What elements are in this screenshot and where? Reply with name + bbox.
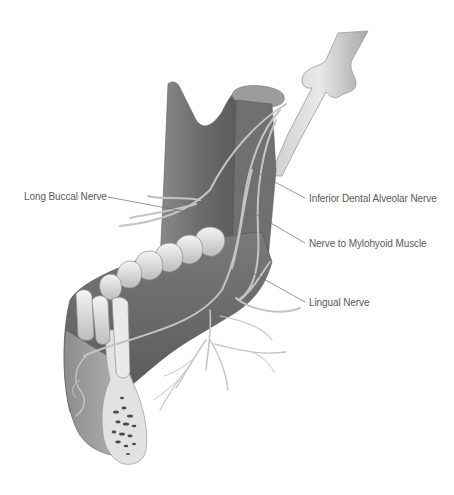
label-inferior-dental-alveolar-nerve: Inferior Dental Alveolar Nerve [309,193,437,205]
label-nerve-to-mylohyoid-muscle: Nerve to Mylohyoid Muscle [309,238,427,250]
nerve-trunk [270,31,368,176]
mandible-nerve-diagram: Long Buccal Nerve Inferior Dental Alveol… [0,0,454,495]
label-lingual-nerve: Lingual Nerve [309,297,369,309]
label-long-buccal-nerve: Long Buccal Nerve [24,191,107,203]
